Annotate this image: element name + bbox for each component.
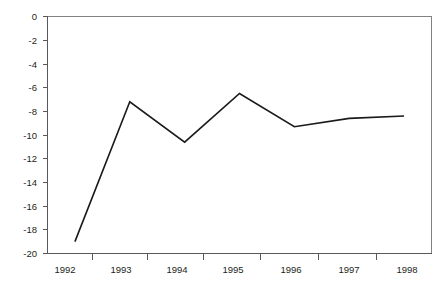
x-tick-label: 1998 — [396, 264, 417, 275]
chart-background — [0, 0, 445, 289]
x-tick-label: 1996 — [280, 264, 301, 275]
x-tick-label: 1994 — [166, 264, 187, 275]
y-tick-label: -4 — [29, 59, 37, 70]
y-tick-label: -10 — [23, 130, 37, 141]
y-tick-label: 0 — [32, 11, 37, 22]
chart-canvas: 0 -2 -4 -6 -8 -10 -12 -14 -16 -18 -20 19… — [0, 0, 445, 289]
x-tick-label: 1993 — [110, 264, 131, 275]
y-tick-label: -14 — [23, 177, 37, 188]
y-tick-label: -12 — [23, 153, 37, 164]
x-tick-label: 1995 — [222, 264, 243, 275]
y-tick-label: -6 — [29, 82, 37, 93]
x-tick-label: 1997 — [338, 264, 359, 275]
y-tick-label: -18 — [23, 224, 37, 235]
y-tick-label: -2 — [29, 35, 37, 46]
y-tick-label: -16 — [23, 201, 37, 212]
y-tick-label: -20 — [23, 248, 37, 259]
x-tick-label: 1992 — [54, 264, 75, 275]
y-tick-label: -8 — [29, 106, 37, 117]
line-chart: 0 -2 -4 -6 -8 -10 -12 -14 -16 -18 -20 19… — [0, 0, 445, 289]
